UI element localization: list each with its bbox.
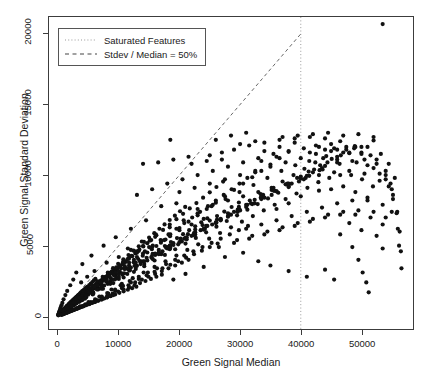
x-tick-label: 30000: [227, 338, 253, 349]
y-tick-label: 5000: [0, 239, 40, 250]
x-tick: [57, 330, 58, 335]
x-tick-label: 0: [54, 338, 59, 349]
x-tick: [362, 330, 363, 335]
scatter-plot-figure: Saturated Features Stdev / Median = 50% …: [0, 0, 426, 382]
y-tick-label: 10000: [0, 168, 40, 179]
legend-entry-stdev-median: Stdev / Median = 50%: [64, 47, 197, 61]
legend-entry-saturated-features: Saturated Features: [64, 33, 197, 47]
y-tick: [43, 104, 48, 105]
x-tick-label: 50000: [349, 338, 375, 349]
legend: Saturated Features Stdev / Median = 50%: [58, 28, 206, 66]
x-tick: [179, 330, 180, 335]
y-tick-label: 0: [0, 310, 40, 321]
y-tick: [43, 246, 48, 247]
dotted-line-swatch-icon: [64, 35, 98, 45]
x-tick-label: 40000: [288, 338, 314, 349]
y-tick: [43, 317, 48, 318]
y-tick-label: 15000: [0, 97, 40, 108]
dashed-line-swatch-icon: [64, 49, 98, 59]
y-tick-label: 20000: [0, 26, 40, 37]
x-tick-label: 10000: [105, 338, 131, 349]
x-tick-label: 20000: [166, 338, 192, 349]
x-tick: [118, 330, 119, 335]
y-tick: [43, 175, 48, 176]
x-tick: [301, 330, 302, 335]
x-tick: [240, 330, 241, 335]
legend-label-saturated-features: Saturated Features: [104, 35, 185, 46]
x-axis-title: Green Signal Median: [48, 356, 414, 368]
y-tick: [43, 33, 48, 34]
legend-label-stdev-median: Stdev / Median = 50%: [104, 49, 197, 60]
